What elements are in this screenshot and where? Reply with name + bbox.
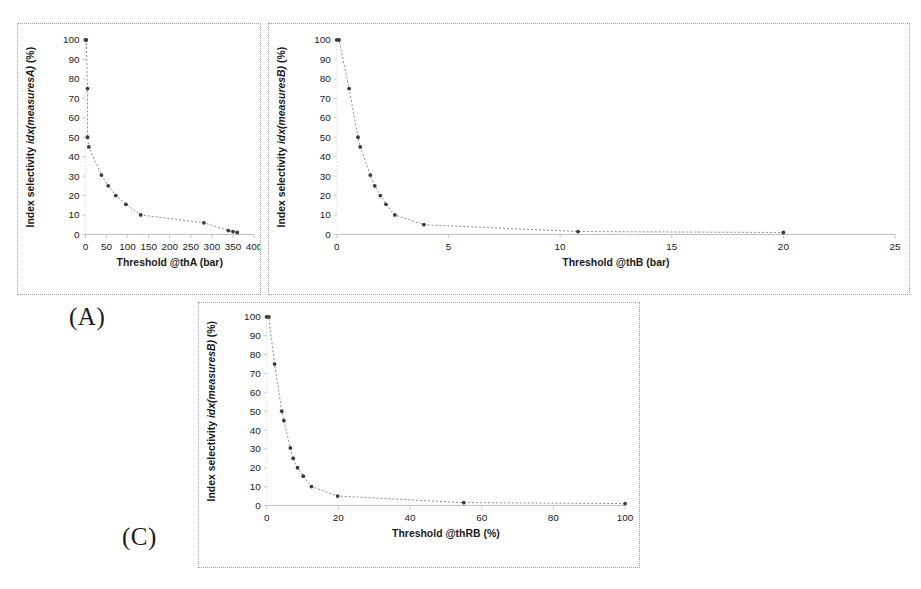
- chart-a-svg: 0102030405060708090100050100150200250300…: [18, 24, 260, 294]
- y-tick-label: 0: [255, 500, 261, 511]
- data-point-marker: [202, 221, 206, 225]
- data-point-marker: [124, 202, 128, 206]
- data-point-marker: [231, 230, 235, 234]
- y-tick-label: 100: [63, 34, 80, 45]
- x-tick-label: 60: [476, 512, 488, 523]
- data-point-marker: [378, 194, 382, 198]
- data-point-marker: [87, 145, 91, 149]
- y-tick-label: 100: [244, 311, 261, 322]
- x-tick-label: 5: [446, 241, 452, 252]
- data-point-marker: [358, 145, 362, 149]
- y-axis-title-italic: idx(measuresA): [25, 65, 36, 144]
- y-axis-title-italic: idx(measuresB): [206, 340, 217, 419]
- x-tick-label: 15: [666, 241, 678, 252]
- y-axis-title-suffix: (%): [25, 47, 36, 66]
- x-tick-label: 350: [225, 241, 242, 252]
- data-series-curve: [337, 40, 784, 233]
- data-point-marker: [368, 173, 372, 177]
- y-tick-label: 20: [320, 190, 332, 201]
- y-tick-label: 90: [320, 54, 332, 65]
- y-axis-title-plain: Index selectivity: [25, 144, 36, 227]
- plot-area-c: 0102030405060708090100020406080100Thresh…: [199, 303, 639, 567]
- y-tick-label: 0: [325, 229, 331, 240]
- x-tick-label: 200: [161, 241, 178, 252]
- x-axis-title: Threshold @thRB (%): [392, 528, 500, 539]
- x-tick-label: 100: [119, 241, 136, 252]
- y-tick-label: 50: [320, 132, 332, 143]
- data-point-marker: [393, 213, 397, 217]
- y-tick-label: 10: [250, 481, 262, 492]
- y-tick-label: 40: [68, 151, 80, 162]
- chart-panel-a: 0102030405060708090100050100150200250300…: [17, 23, 261, 295]
- y-axis-title-italic: idx(measuresB): [276, 65, 287, 144]
- y-tick-label: 70: [250, 368, 262, 379]
- data-point-marker: [296, 466, 300, 470]
- x-tick-label: 20: [778, 241, 790, 252]
- panel-label-c: (C): [122, 523, 157, 551]
- x-tick-label: 80: [548, 512, 560, 523]
- y-axis-title-plain: Index selectivity: [276, 144, 287, 227]
- x-axis-title: Threshold @thB (bar): [562, 257, 669, 268]
- data-series-curve: [85, 40, 237, 233]
- data-point-marker: [282, 419, 286, 423]
- y-axis-title-suffix: (%): [206, 321, 217, 340]
- y-tick-label: 60: [68, 112, 80, 123]
- y-tick-label: 70: [68, 93, 80, 104]
- y-tick-label: 90: [250, 330, 262, 341]
- data-point-marker: [373, 184, 377, 188]
- data-point-marker: [86, 135, 90, 139]
- plot-area-b: 01020304050607080901000510152025Threshol…: [269, 24, 909, 294]
- y-tick-label: 80: [250, 349, 262, 360]
- x-tick-label: 20: [333, 512, 345, 523]
- x-tick-label: 0: [334, 241, 340, 252]
- y-tick-label: 50: [68, 132, 80, 143]
- y-tick-label: 90: [68, 54, 80, 65]
- data-point-marker: [235, 231, 239, 235]
- data-point-marker: [781, 231, 785, 235]
- data-point-marker: [576, 230, 580, 234]
- data-point-marker: [106, 184, 110, 188]
- y-axis-title: Index selectivity idx(measuresB) (%): [206, 321, 217, 501]
- y-tick-label: 20: [250, 462, 262, 473]
- y-tick-label: 60: [320, 112, 332, 123]
- y-tick-label: 80: [320, 73, 332, 84]
- x-tick-label: 10: [555, 241, 567, 252]
- x-tick-label: 0: [83, 241, 89, 252]
- data-point-marker: [100, 173, 104, 177]
- data-point-marker: [139, 213, 143, 217]
- x-tick-label: 150: [140, 241, 157, 252]
- data-point-marker: [337, 38, 341, 42]
- panel-label-a: (A): [69, 303, 105, 331]
- y-tick-label: 40: [250, 425, 262, 436]
- y-axis-title-plain: Index selectivity: [206, 418, 217, 501]
- x-tick-label: 400: [246, 241, 260, 252]
- data-point-marker: [462, 501, 466, 505]
- y-tick-label: 100: [314, 34, 331, 45]
- data-point-marker: [273, 362, 277, 366]
- y-axis-title: Index selectivity idx(measuresA) (%): [25, 47, 36, 228]
- y-tick-label: 70: [320, 93, 332, 104]
- data-point-marker: [301, 474, 305, 478]
- data-point-marker: [422, 223, 426, 227]
- x-tick-label: 300: [204, 241, 221, 252]
- y-tick-label: 0: [74, 229, 80, 240]
- y-tick-label: 80: [68, 73, 80, 84]
- y-tick-label: 10: [320, 209, 332, 220]
- chart-panel-b: 01020304050607080901000510152025Threshol…: [268, 23, 910, 295]
- x-tick-label: 100: [617, 512, 634, 523]
- data-point-marker: [623, 502, 627, 506]
- chart-b-svg: 01020304050607080901000510152025Threshol…: [269, 24, 909, 294]
- x-tick-label: 0: [264, 512, 270, 523]
- y-tick-label: 40: [320, 151, 332, 162]
- data-point-marker: [86, 87, 90, 91]
- y-tick-label: 60: [250, 387, 262, 398]
- data-point-marker: [114, 194, 118, 198]
- x-tick-label: 40: [405, 512, 417, 523]
- data-point-marker: [226, 229, 230, 233]
- y-axis-title: Index selectivity idx(measuresB) (%): [276, 47, 287, 228]
- data-point-marker: [310, 485, 314, 489]
- y-tick-label: 20: [68, 190, 80, 201]
- data-point-marker: [291, 456, 295, 460]
- y-tick-label: 30: [68, 171, 80, 182]
- data-point-marker: [288, 446, 292, 450]
